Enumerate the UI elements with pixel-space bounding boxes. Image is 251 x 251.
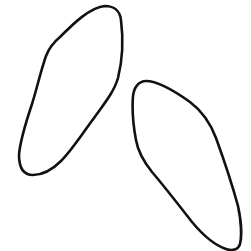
right-sole-outline <box>133 81 241 250</box>
left-sole-outline <box>19 6 122 175</box>
outline-drawing <box>0 0 251 251</box>
drawing-canvas <box>0 0 251 251</box>
